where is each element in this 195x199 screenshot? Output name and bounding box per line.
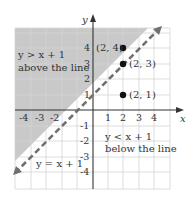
svg-text:1: 1 [84, 89, 90, 100]
inequality-graph: x y -4 -3 -2 1 2 3 4 4 3 2 1 -1 -2 -3 -4… [0, 0, 195, 199]
svg-text:-3: -3 [35, 112, 44, 123]
point-2-1-label: (2, 1) [129, 89, 156, 100]
region-above-inequality: y > x + 1 [17, 49, 65, 60]
svg-text:-2: -2 [50, 112, 59, 123]
x-axis-label: x [180, 113, 186, 124]
point-2-4-label: (2, 4) [96, 42, 123, 53]
svg-text:1: 1 [105, 112, 111, 123]
svg-text:-4: -4 [19, 112, 28, 123]
y-axis-arrow-icon [90, 14, 96, 22]
y-axis-label: y [81, 14, 88, 25]
region-below-inequality: y < x + 1 [104, 131, 152, 142]
svg-text:-1: -1 [80, 120, 89, 131]
svg-text:3: 3 [136, 112, 142, 123]
svg-text:4: 4 [151, 112, 157, 123]
region-above-description: above the line [18, 62, 90, 73]
point-2-3 [120, 61, 126, 67]
line-equation-label: y = x + 1 [35, 158, 83, 169]
point-2-3-label: (2, 3) [129, 58, 156, 69]
point-2-1 [120, 92, 126, 98]
svg-text:2: 2 [120, 112, 126, 123]
svg-text:2: 2 [84, 73, 90, 84]
svg-text:4: 4 [84, 42, 90, 53]
svg-text:-2: -2 [80, 135, 89, 146]
region-below-description: below the line [105, 143, 177, 154]
